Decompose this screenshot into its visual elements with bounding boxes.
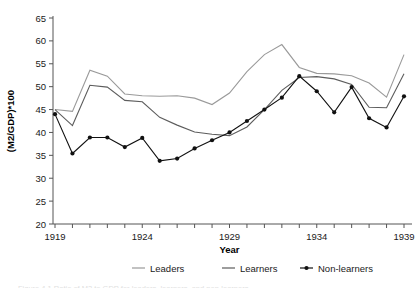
data-point-non-learners (210, 138, 214, 142)
data-point-non-learners (367, 116, 371, 120)
legend-marker-dot (304, 266, 308, 270)
x-tick-label: 1939 (393, 231, 414, 242)
x-tick-label: 1924 (132, 231, 153, 242)
data-point-non-learners (262, 107, 266, 111)
legend-label-1: Leaders (150, 263, 185, 274)
data-point-non-learners (140, 136, 144, 140)
data-point-non-learners (193, 146, 197, 150)
legend-label-3: Non-learners (318, 263, 373, 274)
figure-container: 2025303540455055606519191924192919341939… (0, 0, 419, 293)
data-point-non-learners (297, 74, 301, 78)
data-point-non-learners (158, 159, 162, 163)
data-point-non-learners (123, 145, 127, 149)
data-point-non-learners (227, 130, 231, 134)
data-point-non-learners (350, 85, 354, 89)
y-tick-label: 25 (35, 196, 46, 207)
y-tick-label: 50 (35, 81, 46, 92)
y-tick-label: 35 (35, 150, 46, 161)
data-point-non-learners (315, 89, 319, 93)
y-axis-title: (M2/GDP)*100 (5, 90, 16, 152)
data-point-non-learners (245, 119, 249, 123)
x-axis-title: Year (219, 244, 239, 255)
line-chart: 2025303540455055606519191924192919341939… (0, 0, 419, 293)
series-line-learners (55, 74, 404, 136)
data-point-non-learners (280, 96, 284, 100)
y-tick-label: 20 (35, 219, 46, 230)
y-tick-label: 45 (35, 104, 46, 115)
x-tick-label: 1919 (44, 231, 65, 242)
data-point-non-learners (53, 112, 57, 116)
data-point-non-learners (105, 135, 109, 139)
y-tick-label: 40 (35, 127, 46, 138)
x-tick-label: 1929 (219, 231, 240, 242)
data-point-non-learners (70, 151, 74, 155)
y-tick-label: 30 (35, 173, 46, 184)
y-tick-label: 60 (35, 35, 46, 46)
series-line-leaders (55, 45, 404, 112)
y-tick-label: 55 (35, 58, 46, 69)
data-point-non-learners (88, 135, 92, 139)
data-point-non-learners (384, 125, 388, 129)
legend-label-2: Learners (240, 263, 278, 274)
y-tick-label: 65 (35, 13, 46, 24)
data-point-non-learners (332, 110, 336, 114)
data-point-non-learners (175, 156, 179, 160)
data-point-non-learners (402, 94, 406, 98)
x-tick-label: 1934 (306, 231, 327, 242)
